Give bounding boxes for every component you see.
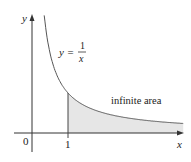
y-axis-label: y [21,12,27,24]
infinite-area-label: infinite area [111,95,162,106]
equation-label: y = 1 x [58,40,86,64]
chart-canvas: y x 0 1 y = 1 x infinite area [0,0,191,162]
x-axis-label: x [176,138,182,150]
tick-label-1: 1 [65,138,71,150]
y-axis-arrow-icon [30,14,35,21]
svg-text:y =: y = [58,46,74,58]
tick-label-0: 0 [23,135,29,147]
svg-text:x: x [78,53,84,64]
curve-1-over-x [44,15,183,123]
svg-text:1: 1 [80,40,85,51]
